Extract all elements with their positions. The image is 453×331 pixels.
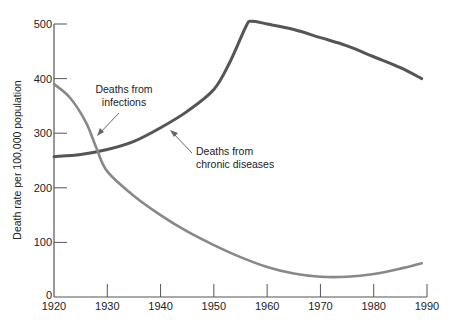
x-tick-label: 1960 — [255, 300, 279, 312]
y-axis-label: Death rate per 100,000 population — [11, 80, 23, 240]
annotation-chronic-line1: Deaths from — [196, 145, 253, 157]
x-tick-label: 1980 — [361, 300, 385, 312]
y-tick-label: 100 — [34, 236, 52, 248]
x-tick-label: 1970 — [308, 300, 332, 312]
x-tick-label: 1920 — [42, 300, 66, 312]
annotation-infections-line2: infections — [102, 96, 146, 108]
x-tick-label: 1930 — [95, 300, 119, 312]
annotation-infections-line1: Deaths from — [95, 83, 152, 95]
series-infections-line — [54, 84, 422, 277]
y-tick-label: 500 — [34, 18, 52, 30]
x-tick-label: 1990 — [415, 300, 439, 312]
annotation-infections: Deaths from infections — [95, 83, 152, 136]
line-chart: 0100200300400500192019301940195019601970… — [0, 0, 453, 331]
annotation-chronic: Deaths from chronic diseases — [170, 130, 274, 170]
x-tick-label: 1950 — [202, 300, 226, 312]
y-tick-label: 300 — [34, 127, 52, 139]
y-tick-label: 200 — [34, 182, 52, 194]
arrowhead-chronic-icon — [170, 130, 178, 137]
y-tick-label: 400 — [34, 73, 52, 85]
x-tick-label: 1940 — [148, 300, 172, 312]
annotation-chronic-line2: chronic diseases — [196, 158, 274, 170]
